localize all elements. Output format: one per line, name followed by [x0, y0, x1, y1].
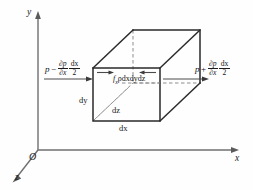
left-pressure-arrowhead [86, 76, 93, 81]
dx-dimension-label: dx [119, 124, 128, 133]
fluid-element-diagram: y x z O dy dz dx p − ∂p ∂x dx 2 p + ∂p ∂… [0, 0, 253, 190]
right-pressure-step-fraction: dx 2 [219, 60, 231, 77]
right-pressure-deriv-denominator: ∂x [208, 69, 218, 77]
left-pressure-operator: − [50, 64, 57, 74]
right-pressure-derivative-fraction: ∂p ∂x [207, 60, 219, 77]
body-force-volume: dxdydz [122, 74, 146, 83]
dy-dimension-label: dy [79, 96, 88, 105]
z-axis-label: z [15, 173, 19, 183]
y-axis-arrowhead [35, 11, 41, 19]
dz-dimension-label: dz [112, 106, 120, 115]
left-pressure-derivative-fraction: ∂p ∂x [57, 60, 69, 77]
y-axis-label: y [27, 8, 31, 18]
body-force-expression: fxρdxdydz [113, 74, 145, 85]
right-pressure-step-denominator: 2 [221, 69, 228, 77]
depth-edge-bottom-right [160, 83, 200, 121]
right-pressure-expression: p + ∂p ∂x dx 2 [195, 60, 230, 77]
origin-label: O [29, 152, 36, 162]
left-pressure-step-fraction: dx 2 [69, 60, 81, 77]
left-pressure-deriv-denominator: ∂x [58, 69, 68, 77]
left-pressure-step-denominator: 2 [71, 69, 78, 77]
depth-edge-top-left [93, 30, 133, 68]
left-pressure-expression: p − ∂p ∂x dx 2 [45, 60, 80, 77]
x-axis-label: x [235, 154, 239, 164]
cuboid-group [93, 30, 200, 121]
right-pressure-operator: + [200, 64, 207, 74]
diagram-canvas [0, 0, 253, 190]
depth-edge-top-right [160, 30, 200, 68]
